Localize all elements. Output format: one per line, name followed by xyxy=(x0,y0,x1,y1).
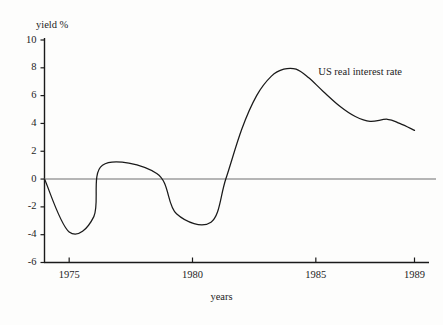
x-tick-label: 1989 xyxy=(393,270,437,281)
y-tick-label: 6 xyxy=(11,90,37,101)
x-tick-label: 1985 xyxy=(294,270,338,281)
y-tick-label: 2 xyxy=(11,146,37,157)
y-tick-label: 10 xyxy=(11,35,37,46)
x-tick-label: 1980 xyxy=(171,270,215,281)
y-tick-label: 8 xyxy=(11,62,37,73)
y-tick-label: -4 xyxy=(11,229,37,240)
y-tick-label: -6 xyxy=(11,257,37,268)
x-axis-tick-marks xyxy=(69,258,414,263)
data-series-line xyxy=(45,68,415,234)
y-tick-label: 0 xyxy=(11,174,37,185)
series-annotation-label: US real interest rate xyxy=(318,67,402,78)
y-tick-label: -2 xyxy=(11,201,37,212)
y-tick-label: 4 xyxy=(11,118,37,129)
x-axis-title: years xyxy=(0,292,443,303)
x-tick-label: 1975 xyxy=(47,270,91,281)
chart-page: yield % years 1086420-2-4-61975198019851… xyxy=(0,0,443,325)
y-axis-title: yield % xyxy=(36,20,68,31)
